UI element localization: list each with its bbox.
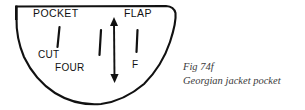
double-headed-arrow-icon xyxy=(110,17,119,83)
caption-description: Georgian jacket pocket xyxy=(183,74,281,88)
label-f: F xyxy=(132,60,138,70)
label-four: FOUR xyxy=(55,63,85,73)
label-flap: FLAP xyxy=(124,8,152,19)
tick-mark-left-icon xyxy=(58,27,60,47)
figure-caption: Fig 74f Georgian jacket pocket xyxy=(183,60,281,88)
label-cut: CUT xyxy=(38,50,59,60)
caption-figure-number: Fig 74f xyxy=(183,60,281,74)
tick-mark-middle-icon xyxy=(100,30,102,55)
tick-mark-right-icon xyxy=(137,30,138,52)
figure-canvas: POCKET FLAP CUT FOUR F Fig 74f Georgian … xyxy=(0,0,305,110)
label-pocket: POCKET xyxy=(33,8,79,19)
